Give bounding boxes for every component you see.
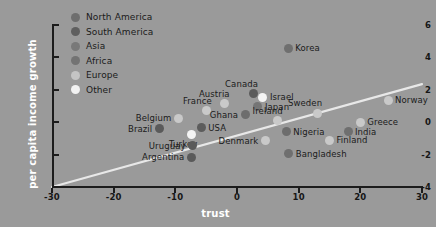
y-tick xyxy=(52,89,59,91)
data-point-label: France xyxy=(183,96,212,106)
legend-item-label: Africa xyxy=(86,56,112,66)
data-point[interactable] xyxy=(258,93,267,102)
x-axis-title: trust xyxy=(0,208,431,219)
data-point[interactable] xyxy=(284,44,293,53)
data-point[interactable] xyxy=(187,130,196,139)
y-tick xyxy=(52,56,59,58)
legend-item-south-america[interactable]: South America xyxy=(71,25,153,40)
y-tick xyxy=(52,154,59,156)
legend-item-asia[interactable]: Asia xyxy=(71,39,153,54)
y-tick xyxy=(52,121,59,123)
data-point-label: Argentina xyxy=(142,152,184,162)
data-point[interactable] xyxy=(249,89,258,98)
x-tick-label: -20 xyxy=(92,192,136,202)
legend-item-other[interactable]: Other xyxy=(71,83,153,98)
data-point[interactable] xyxy=(356,118,365,127)
data-point-label: Greece xyxy=(367,117,398,127)
data-point-label: Canada xyxy=(225,79,258,89)
data-point-label: Nigeria xyxy=(293,127,324,137)
data-point[interactable] xyxy=(187,153,196,162)
y-tick-label: 4 xyxy=(385,52,431,62)
x-tick-label: 0 xyxy=(215,192,259,202)
data-point-label: Uruguay xyxy=(149,141,186,151)
legend-swatch-icon xyxy=(71,56,80,65)
data-point-label: USA xyxy=(208,123,226,133)
legend-item-africa[interactable]: Africa xyxy=(71,54,153,69)
legend-swatch-icon xyxy=(71,27,80,36)
data-point-label: Ghana xyxy=(210,110,238,120)
data-point-label: Norway xyxy=(395,95,428,105)
y-tick xyxy=(52,186,59,188)
data-point-label: Ireland xyxy=(253,106,283,116)
data-point-label: Belgium xyxy=(136,113,172,123)
data-point[interactable] xyxy=(155,124,164,133)
y-axis-spine xyxy=(52,24,54,188)
legend: North AmericaSouth AmericaAsiaAfricaEuro… xyxy=(71,10,153,97)
data-point-label: Sweden xyxy=(288,98,322,108)
x-tick-label: 20 xyxy=(338,192,382,202)
data-point-label: Bangladesh xyxy=(296,149,347,159)
y-tick-label: -2 xyxy=(385,150,431,160)
legend-item-north-america[interactable]: North America xyxy=(71,10,153,25)
data-point[interactable] xyxy=(325,136,334,145)
data-point[interactable] xyxy=(313,109,322,118)
legend-swatch-icon xyxy=(71,85,80,94)
legend-swatch-icon xyxy=(71,71,80,80)
data-point[interactable] xyxy=(384,96,393,105)
legend-item-label: Asia xyxy=(86,41,105,51)
data-point-label: Brazil xyxy=(128,124,152,134)
legend-swatch-icon xyxy=(71,13,80,22)
data-point[interactable] xyxy=(241,110,250,119)
y-tick xyxy=(52,24,59,26)
legend-swatch-icon xyxy=(71,42,80,51)
legend-item-europe[interactable]: Europe xyxy=(71,68,153,83)
legend-item-label: Europe xyxy=(86,70,118,80)
legend-item-label: North America xyxy=(86,12,152,22)
data-point-label: Denmark xyxy=(219,136,259,146)
legend-item-label: Other xyxy=(86,85,112,95)
x-tick-label: 10 xyxy=(277,192,321,202)
y-tick-label: 6 xyxy=(385,20,431,30)
y-tick-label: 2 xyxy=(385,85,431,95)
y-axis-title: per capita income growth xyxy=(27,34,38,194)
legend-item-label: South America xyxy=(86,27,153,37)
y-tick-label: -4 xyxy=(385,182,431,192)
data-point-label: Finland xyxy=(337,135,368,145)
data-point[interactable] xyxy=(174,114,183,123)
x-tick-label: -10 xyxy=(153,192,197,202)
data-point-label: Korea xyxy=(295,43,320,53)
x-tick-label: 30 xyxy=(400,192,436,202)
